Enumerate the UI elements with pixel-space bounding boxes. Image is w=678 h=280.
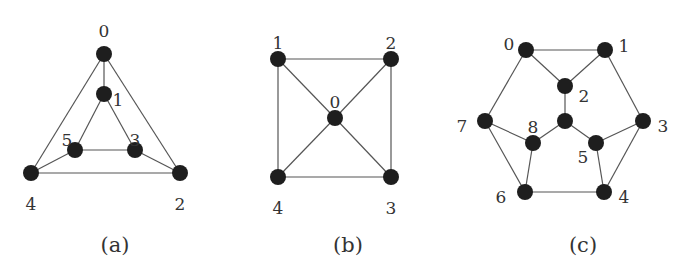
graph-b: 12043(b)	[270, 33, 399, 258]
edge-1-2	[565, 50, 605, 86]
edge-0-4	[31, 54, 104, 173]
node-label: 0	[504, 34, 515, 54]
node-label: 3	[130, 130, 141, 150]
node-label: 4	[273, 198, 284, 218]
node-8	[525, 135, 541, 151]
subfigure-caption: (b)	[333, 233, 363, 257]
edge-3-4	[604, 121, 643, 192]
node-0	[518, 42, 534, 58]
node-c	[557, 113, 573, 129]
node-2	[172, 165, 188, 181]
node-7	[477, 113, 493, 129]
node-3	[635, 113, 651, 129]
edge-1-3	[605, 50, 643, 121]
node-4	[596, 184, 612, 200]
edges	[31, 54, 180, 173]
node-label: 6	[496, 187, 507, 207]
node-label: 5	[62, 130, 73, 150]
node-1	[597, 42, 613, 58]
node-4	[23, 165, 39, 181]
edge-0-4	[278, 118, 335, 177]
node-5	[588, 135, 604, 151]
graph-figure: 015342(a) 12043(b) 012785364(c)	[0, 0, 678, 280]
edge-0-3	[335, 118, 391, 177]
edge-0-7	[485, 50, 526, 121]
edge-1-5	[75, 94, 104, 150]
node-0	[327, 110, 343, 126]
node-2	[557, 78, 573, 94]
node-label: 2	[579, 86, 590, 106]
node-label: 0	[330, 92, 341, 112]
node-label: 5	[578, 147, 589, 167]
node-label: 8	[528, 117, 539, 137]
edge-0-2	[335, 59, 391, 118]
node-label: 4	[619, 187, 630, 207]
node-2	[383, 51, 399, 67]
node-label: 1	[619, 36, 630, 56]
edge-7-6	[485, 121, 525, 192]
node-6	[517, 184, 533, 200]
node-label: 3	[386, 198, 397, 218]
graph-a: 015342(a)	[23, 21, 188, 258]
node-label: 1	[273, 33, 284, 53]
node-4	[270, 169, 286, 185]
node-label: 3	[658, 116, 669, 136]
edge-0-1	[278, 59, 335, 118]
graph-c: 012785364(c)	[457, 34, 669, 258]
node-1	[96, 86, 112, 102]
node-label: 4	[26, 194, 37, 214]
node-label: 7	[457, 116, 468, 136]
subfigure-caption: (c)	[569, 233, 597, 257]
node-0	[96, 46, 112, 62]
node-label: 0	[99, 21, 110, 41]
node-label: 2	[386, 33, 397, 53]
node-label: 1	[113, 90, 124, 110]
node-1	[270, 51, 286, 67]
subfigure-caption: (a)	[101, 233, 130, 257]
node-3	[383, 169, 399, 185]
node-label: 2	[175, 194, 186, 214]
